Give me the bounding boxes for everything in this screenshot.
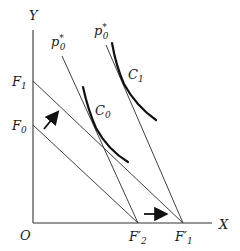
label-price-line-2: p*0 <box>94 22 109 41</box>
label-f2-prime: F′2 <box>128 229 147 246</box>
price-line-2 <box>106 45 183 223</box>
x-axis-label: X <box>218 217 229 232</box>
budget-shift-up-arrow <box>44 113 57 129</box>
price-line-1 <box>62 56 138 223</box>
origin-label: O <box>20 228 31 243</box>
diagram-canvas: Y X O F1 F0 F′2 F′1 p*0 p*0 C0 C1 <box>0 0 240 251</box>
label-c1: C1 <box>128 67 144 84</box>
label-f1: F1 <box>11 74 27 91</box>
label-c0: C0 <box>95 103 111 120</box>
label-f0: F0 <box>11 118 27 135</box>
budget-line-f0 <box>33 125 138 223</box>
label-f1-prime: F′1 <box>174 229 193 246</box>
budget-line-f1 <box>33 81 183 223</box>
label-price-line-1: p*0 <box>51 33 66 52</box>
y-axis-label: Y <box>29 8 39 23</box>
